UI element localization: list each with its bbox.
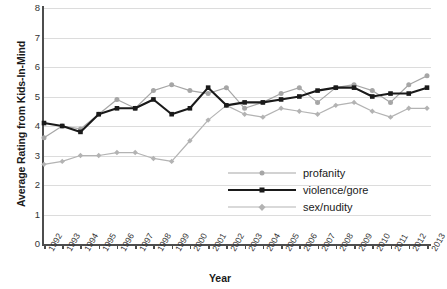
data-point-marker: [333, 85, 338, 90]
data-point-marker: [242, 112, 247, 117]
x-tick-mark: [44, 244, 46, 249]
data-point-marker: [406, 91, 411, 96]
x-tick-label: 2006: [301, 231, 319, 253]
data-point-marker: [315, 88, 320, 93]
gridline: [44, 38, 431, 39]
data-point-marker: [406, 106, 411, 111]
data-point-marker: [333, 103, 338, 108]
data-point-marker: [96, 112, 101, 117]
x-tick-label: 2000: [191, 231, 209, 253]
data-point-marker: [132, 150, 137, 155]
data-point-marker: [424, 106, 429, 111]
data-point-marker: [334, 85, 339, 90]
y-tick-label: 3: [6, 150, 40, 161]
legend-swatch-icon: [228, 166, 296, 180]
series-profanity: [42, 73, 430, 140]
legend-marker-icon: [259, 203, 265, 209]
data-point-marker: [261, 100, 266, 105]
x-tick-label: 2007: [319, 231, 337, 253]
gridline: [44, 8, 431, 9]
data-point-marker: [187, 138, 192, 143]
x-axis-title: Year: [0, 272, 440, 284]
data-point-marker: [315, 112, 320, 117]
y-tick-label: 8: [6, 2, 40, 13]
x-tick-label: 2008: [337, 231, 355, 253]
data-point-marker: [114, 97, 119, 102]
data-point-marker: [388, 91, 393, 96]
x-tick-label: 1995: [100, 231, 118, 253]
data-point-marker: [115, 106, 120, 111]
x-tick-label: 1999: [173, 231, 191, 253]
y-tick-label: 6: [6, 61, 40, 72]
gridline: [44, 97, 431, 98]
data-point-marker: [425, 85, 430, 90]
data-point-marker: [370, 88, 375, 93]
data-point-marker: [133, 106, 138, 111]
data-point-marker: [278, 106, 283, 111]
data-point-marker: [205, 117, 210, 122]
y-tick-label: 2: [6, 179, 40, 190]
y-tick-label: 0: [6, 238, 40, 249]
data-point-marker: [425, 73, 430, 78]
legend-item-profanity[interactable]: profanity: [228, 164, 368, 181]
data-point-marker: [96, 112, 101, 117]
data-point-marker: [279, 97, 284, 102]
x-tick-label: 2009: [356, 231, 374, 253]
y-axis-line: [42, 6, 44, 246]
data-point-marker: [388, 114, 393, 119]
data-point-marker: [151, 97, 156, 102]
y-tick-label: 1: [6, 209, 40, 220]
chart-title-fragment: [0, 0, 440, 3]
data-point-marker: [133, 106, 138, 111]
data-point-marker: [279, 91, 284, 96]
x-tick-label: 1998: [155, 231, 173, 253]
gridline: [44, 67, 431, 68]
data-point-marker: [406, 82, 411, 87]
x-tick-label: 2011: [392, 232, 410, 253]
legend-item-violence-gore[interactable]: violence/gore: [228, 181, 368, 198]
gridline: [44, 126, 431, 127]
x-tick-label: 1994: [82, 231, 100, 253]
data-point-marker: [224, 103, 229, 108]
data-point-marker: [151, 156, 156, 161]
x-tick-label: 2004: [264, 231, 282, 253]
y-tick-label: 7: [6, 32, 40, 43]
data-point-marker: [187, 88, 192, 93]
series-line: [44, 76, 427, 138]
x-tick-label: 2001: [210, 231, 228, 253]
data-point-marker: [206, 85, 211, 90]
legend: profanityviolence/goresex/nudity: [228, 164, 368, 215]
x-tick-label: 1993: [64, 231, 82, 253]
data-point-marker: [169, 159, 174, 164]
x-tick-mark: [427, 244, 429, 249]
x-tick-label: 2003: [246, 231, 264, 253]
legend-item-sex-nudity[interactable]: sex/nudity: [228, 198, 368, 215]
legend-label: sex/nudity: [303, 201, 353, 213]
data-point-marker: [188, 106, 193, 111]
data-point-marker: [370, 109, 375, 114]
legend-swatch-icon: [228, 183, 296, 197]
data-point-marker: [224, 103, 229, 108]
data-point-marker: [78, 126, 83, 131]
series-sex-nudity: [41, 100, 429, 167]
x-tick-label: 2002: [228, 231, 246, 253]
x-tick-label: 2005: [283, 231, 301, 253]
x-tick-label: 1996: [118, 231, 136, 253]
data-point-marker: [315, 100, 320, 105]
legend-marker-icon: [260, 187, 265, 192]
data-point-marker: [169, 112, 174, 117]
data-point-marker: [351, 100, 356, 105]
data-point-marker: [60, 159, 65, 164]
y-tick-label: 4: [6, 120, 40, 131]
data-point-marker: [352, 82, 357, 87]
legend-marker-icon: [260, 170, 265, 175]
data-point-marker: [151, 88, 156, 93]
y-tick-label: 5: [6, 91, 40, 102]
data-point-marker: [352, 85, 357, 90]
gridline: [44, 156, 431, 157]
x-tick-label: 2012: [410, 231, 428, 253]
data-point-marker: [169, 82, 174, 87]
data-point-marker: [388, 100, 393, 105]
x-tick-label: 1997: [137, 231, 155, 253]
